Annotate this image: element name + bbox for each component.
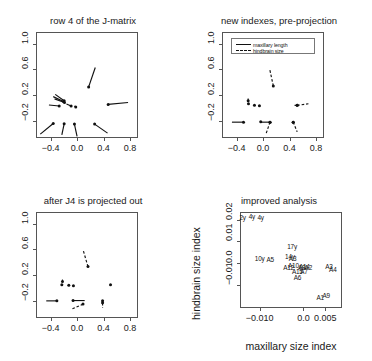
legend-label: hindbrain size: [253, 48, 284, 54]
x-tick-label: 0.4: [283, 143, 296, 153]
vector-origin-point: [101, 301, 104, 304]
y-tick-mark: [33, 44, 36, 45]
y-tick-label: −0.2: [20, 273, 30, 301]
y-tick-mark: [33, 249, 36, 250]
vector-line: [95, 124, 108, 133]
x-axis-title: maxillary size index: [221, 340, 361, 352]
x-tick-mark: [263, 138, 264, 141]
legend-entry-hindbrain: hindbrain size: [236, 48, 284, 54]
x-tick-mark: [316, 138, 317, 141]
y-tick-mark: [237, 263, 240, 264]
legend: maxillary length hindbrain size: [231, 38, 315, 54]
scatter-point-label: A6: [294, 274, 301, 281]
legend-key-solid: [236, 44, 251, 46]
y-tick-mark: [33, 121, 36, 122]
y-tick-label: 1.0: [20, 16, 30, 44]
vector-origin-point: [72, 284, 75, 287]
x-tick-label: 0.0: [71, 323, 84, 333]
x-tick-mark: [260, 308, 261, 311]
y-tick-label: 0.2: [20, 247, 30, 275]
panel-title: improved analysis: [186, 195, 372, 206]
vector-origin-point: [269, 121, 272, 124]
x-tick-label: 0.4: [97, 143, 110, 153]
y-tick-mark: [219, 95, 222, 96]
vector-line: [49, 105, 59, 106]
vector-origin-point: [296, 104, 299, 107]
scatter-point-label: 4y: [249, 212, 255, 219]
vector-line: [71, 304, 83, 309]
x-tick-mark: [237, 138, 238, 141]
vector-line: [89, 68, 96, 87]
vector-origin-point: [61, 280, 64, 283]
scatter-point-label: A5: [266, 256, 273, 263]
y-tick-label: 1.0: [206, 16, 216, 44]
y-tick-mark: [219, 121, 222, 122]
vector-origin-point: [86, 265, 89, 268]
y-tick-mark: [33, 301, 36, 302]
x-tick-mark: [77, 318, 78, 321]
x-tick-label: −0.4: [42, 143, 60, 153]
y-tick-label: 0.2: [20, 67, 30, 95]
panel-j4-projected-out: after J4 is projected out −0.40.00.40.8−…: [0, 180, 186, 361]
y-axis-title: hindbrain size index: [190, 200, 202, 320]
x-tick-label: −0.4: [228, 143, 246, 153]
scatter-point-label: A9: [323, 291, 330, 298]
x-tick-mark: [290, 138, 291, 141]
scatter-point-label: 2y: [239, 213, 245, 220]
vector-origin-point: [253, 104, 256, 107]
x-tick-label: 0.8: [124, 143, 137, 153]
vector-line: [83, 251, 88, 267]
vector-origin-point: [82, 303, 85, 306]
panel-new-indexes: new indexes, pre-projection −0.40.00.40.…: [186, 0, 372, 180]
scatter-point-label: A4: [329, 266, 336, 273]
x-tick-label: 0.8: [124, 323, 137, 333]
x-tick-mark: [104, 318, 105, 321]
scatter-point-label: 4y: [257, 213, 263, 220]
vector-origin-point: [93, 123, 96, 126]
y-tick-mark: [219, 44, 222, 45]
vector-origin-point: [73, 123, 76, 126]
x-tick-label: 0.0: [71, 143, 84, 153]
y-tick-label: 0.6: [206, 41, 216, 69]
x-tick-mark: [303, 308, 304, 311]
y-tick-mark: [237, 285, 240, 286]
vector-line: [74, 124, 77, 136]
y-tick-mark: [237, 241, 240, 242]
y-tick-label: 0.6: [20, 41, 30, 69]
x-tick-mark: [130, 138, 131, 141]
panel-row4-jmatrix: row 4 of the J-matrix −0.40.00.40.8−0.20…: [0, 0, 186, 180]
x-tick-label: −0.4: [42, 323, 60, 333]
x-tick-mark: [104, 138, 105, 141]
vector-origin-point: [258, 104, 261, 107]
vector-line: [62, 124, 64, 135]
y-tick-label: 1.0: [20, 196, 30, 224]
y-tick-label: 0.02: [224, 192, 234, 220]
panel-improved-analysis: improved analysis 2y4y4y17y10yA514yA3A10…: [186, 180, 372, 361]
x-tick-mark: [130, 318, 131, 321]
vector-origin-point: [74, 105, 77, 108]
vector-origin-point: [72, 299, 75, 302]
x-tick-label: 0.8: [310, 143, 323, 153]
vector-origin-point: [52, 122, 55, 125]
vector-origin-point: [247, 99, 250, 102]
vector-origin-point: [247, 102, 250, 105]
vector-origin-point: [63, 101, 66, 104]
vector-origin-point: [109, 283, 112, 286]
x-tick-mark: [325, 308, 326, 311]
vector-line: [108, 102, 128, 104]
vector-line: [270, 69, 274, 86]
vector-origin-point: [70, 105, 73, 108]
vector-line: [293, 122, 297, 132]
vector-origin-point: [58, 105, 61, 108]
vector-origin-point: [242, 121, 245, 124]
x-tick-mark: [51, 138, 52, 141]
x-tick-label: 0.4: [97, 323, 110, 333]
scatter-point-label: 10y: [255, 255, 265, 262]
x-tick-label: −0.010: [246, 313, 274, 323]
y-tick-mark: [33, 95, 36, 96]
y-tick-label: 0.6: [20, 221, 30, 249]
y-tick-label: −0.2: [206, 93, 216, 121]
y-tick-mark: [33, 69, 36, 70]
y-tick-mark: [33, 224, 36, 225]
vector-line: [266, 122, 270, 134]
